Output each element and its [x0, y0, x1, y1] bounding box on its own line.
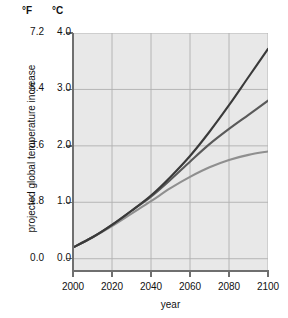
plot-area: [73, 33, 268, 270]
x-tick-label: 2000: [53, 281, 93, 292]
series-line-low-emissions-scenario: [73, 152, 268, 248]
celsius-unit-header: °C: [52, 5, 63, 16]
fahrenheit-tick-label: 0.0: [18, 252, 44, 263]
x-tick-label: 2020: [92, 281, 132, 292]
series-line-medium-emissions-scenario: [73, 101, 268, 248]
fahrenheit-tick-label: 3.6: [18, 139, 44, 150]
celsius-tick-label: 3.0: [47, 82, 71, 93]
horizontal-gridlines: [73, 33, 268, 259]
x-tick-mark: [228, 270, 230, 277]
x-tick-label: 2060: [170, 281, 210, 292]
celsius-tick-label: 4.0: [47, 26, 71, 37]
projected-global-temperature-chart: °F °C projected global temperature incre…: [0, 0, 288, 318]
chart-canvas: [73, 33, 268, 270]
x-tick-mark: [150, 270, 152, 277]
fahrenheit-tick-label: 7.2: [18, 26, 44, 37]
x-tick-mark: [189, 270, 191, 277]
fahrenheit-tick-label: 1.8: [18, 195, 44, 206]
vertical-gridlines: [73, 33, 268, 270]
celsius-tick-label: 0.0: [47, 252, 71, 263]
fahrenheit-tick-label: 5.4: [18, 82, 44, 93]
x-tick-label: 2040: [131, 281, 171, 292]
y-axis-line: [72, 33, 74, 271]
x-tick-mark: [267, 270, 269, 277]
x-tick-label: 2080: [209, 281, 249, 292]
series-lines: [73, 49, 268, 248]
x-axis-line: [72, 270, 269, 272]
x-tick-mark: [111, 270, 113, 277]
x-axis-title: year: [73, 299, 268, 310]
celsius-tick-label: 2.0: [47, 139, 71, 150]
x-tick-label: 2100: [248, 281, 288, 292]
x-tick-mark: [72, 270, 74, 277]
series-line-high-emissions-scenario: [73, 49, 268, 248]
fahrenheit-unit-header: °F: [22, 5, 32, 16]
celsius-tick-label: 1.0: [47, 195, 71, 206]
